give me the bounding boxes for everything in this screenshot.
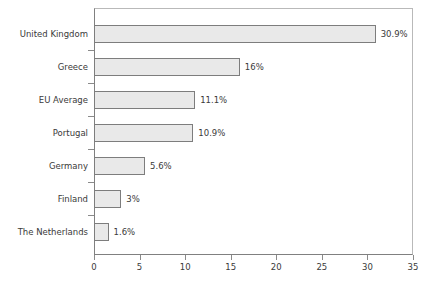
x-axis-tick-25 [322, 255, 323, 260]
bar-value-eu-average: 11.1% [200, 95, 227, 105]
bar-eu-average[interactable] [94, 91, 195, 109]
bar-value-united-kingdom: 30.9% [381, 29, 408, 39]
x-axis-tick-0 [94, 255, 95, 260]
bar-value-portugal: 10.9% [198, 128, 225, 138]
bar-the-netherlands[interactable] [94, 223, 109, 241]
category-label-finland: Finland [0, 194, 88, 204]
bar-value-greece: 16% [245, 62, 264, 72]
bar-portugal[interactable] [94, 124, 193, 142]
category-label-germany: Germany [0, 161, 88, 171]
category-label-greece: Greece [0, 62, 88, 72]
bar-united-kingdom[interactable] [94, 25, 376, 43]
x-axis-tick-5 [140, 255, 141, 260]
x-axis-tick-10 [185, 255, 186, 260]
bar-chart: United Kingdom Greece EU Average Portuga… [0, 0, 429, 287]
category-label-eu-average: EU Average [0, 95, 88, 105]
bar-greece[interactable] [94, 58, 240, 76]
x-axis-label-35: 35 [408, 262, 419, 272]
category-axis: United Kingdom Greece EU Average Portuga… [0, 8, 88, 255]
x-axis-label-10: 10 [180, 262, 191, 272]
bar-value-the-netherlands: 1.6% [114, 227, 136, 237]
category-label-united-kingdom: United Kingdom [0, 29, 88, 39]
bar-germany[interactable] [94, 157, 145, 175]
x-axis-tick-35 [413, 255, 414, 260]
bar-finland[interactable] [94, 190, 121, 208]
bar-value-finland: 3% [126, 194, 140, 204]
category-label-portugal: Portugal [0, 128, 88, 138]
x-axis-label-20: 20 [271, 262, 282, 272]
x-axis-label-15: 15 [225, 262, 236, 272]
x-axis-label-25: 25 [316, 262, 327, 272]
bar-value-germany: 5.6% [150, 161, 172, 171]
x-axis-tick-20 [276, 255, 277, 260]
x-axis-label-0: 0 [91, 262, 96, 272]
x-axis-tick-30 [367, 255, 368, 260]
x-axis-tick-15 [231, 255, 232, 260]
value-axis: 05101520253035 [94, 255, 413, 279]
x-axis-label-5: 5 [137, 262, 142, 272]
x-axis-label-30: 30 [362, 262, 373, 272]
category-label-the-netherlands: The Netherlands [0, 227, 88, 237]
bars-layer: 30.9% 16% 11.1% 10.9% 5.6% 3% 1.6% [94, 8, 413, 255]
